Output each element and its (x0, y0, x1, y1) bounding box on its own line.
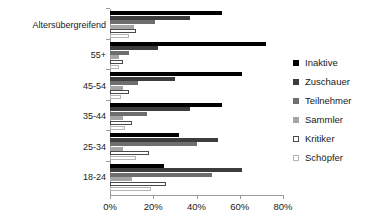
bar (110, 46, 158, 50)
bar (110, 168, 242, 172)
bar-row (110, 116, 283, 120)
bar (110, 16, 190, 20)
bar-row (110, 86, 283, 90)
bar-row (110, 177, 283, 181)
bar-row (110, 142, 283, 146)
bar-row (110, 72, 283, 76)
bar (110, 133, 179, 137)
bar (110, 142, 197, 146)
bar (110, 147, 123, 151)
bar-row (110, 107, 283, 111)
bar-row (110, 16, 283, 20)
bar-row (110, 60, 283, 64)
x-axis-label: 80% (263, 201, 303, 212)
bar-row (110, 164, 283, 168)
bar-row (110, 156, 283, 160)
bar-row (110, 103, 283, 107)
bar (110, 55, 119, 59)
bar-row (110, 182, 283, 186)
x-axis-tick (283, 195, 284, 199)
bar (110, 107, 190, 111)
bar-row (110, 126, 283, 130)
bar-row (110, 51, 283, 55)
bar-row (110, 65, 283, 69)
bar-row (110, 168, 283, 172)
bar (110, 138, 218, 142)
bar (110, 34, 129, 38)
bar-row (110, 25, 283, 29)
bar (110, 65, 119, 69)
legend-label: Sammler (305, 114, 343, 125)
bar (110, 116, 123, 120)
bar-row (110, 11, 283, 15)
x-axis-tick (110, 195, 111, 199)
bar (110, 11, 222, 15)
legend-item[interactable]: Kritiker (293, 129, 351, 148)
legend-label: Inaktive (305, 57, 338, 68)
bar (110, 177, 132, 181)
y-axis-tick (106, 130, 110, 131)
bar (110, 103, 222, 107)
legend-label: Zuschauer (305, 76, 350, 87)
bar-row (110, 187, 283, 191)
bar (110, 86, 123, 90)
bar (110, 164, 164, 168)
bar (110, 95, 121, 99)
legend-item[interactable]: Sammler (293, 110, 351, 129)
bar-row (110, 147, 283, 151)
bar (110, 29, 136, 33)
legend-swatch-icon (293, 136, 299, 142)
y-axis-tick (106, 100, 110, 101)
y-axis-label: 25-34 (83, 142, 106, 152)
legend-item[interactable]: Schöpfer (293, 148, 351, 167)
legend-swatch-icon (293, 79, 299, 85)
bar (110, 151, 149, 155)
bar-row (110, 133, 283, 137)
y-axis-tick (106, 161, 110, 162)
legend-item[interactable]: Zuschauer (293, 72, 351, 91)
y-axis-label: 55+ (91, 50, 106, 60)
legend-label: Kritiker (305, 133, 335, 144)
bar-row (110, 173, 283, 177)
bar-row (110, 42, 283, 46)
legend-label: Teilnehmer (305, 95, 351, 106)
legend-swatch-icon (293, 98, 299, 104)
bar (110, 51, 129, 55)
bar-row (110, 34, 283, 38)
x-axis-tick (153, 195, 154, 199)
y-axis-tick (106, 8, 110, 9)
x-axis-label: 0% (90, 201, 130, 212)
bar-row (110, 138, 283, 142)
x-axis-label: 20% (133, 201, 173, 212)
bar-row (110, 77, 283, 81)
y-axis-tick (106, 39, 110, 40)
bar-row (110, 46, 283, 50)
bar (110, 182, 166, 186)
x-axis-label: 40% (177, 201, 217, 212)
bar (110, 187, 151, 191)
legend-swatch-icon (293, 60, 299, 66)
bar-row (110, 20, 283, 24)
bar-row (110, 151, 283, 155)
chart-legend: InaktiveZuschauerTeilnehmerSammlerKritik… (293, 53, 351, 167)
plot-area (110, 9, 283, 195)
bar-row (110, 112, 283, 116)
x-axis-tick (197, 195, 198, 199)
bar-row (110, 95, 283, 99)
legend-label: Schöpfer (305, 152, 343, 163)
bar (110, 156, 136, 160)
bar (110, 72, 242, 76)
bar-row (110, 29, 283, 33)
bar (110, 42, 266, 46)
bar (110, 112, 147, 116)
bar (110, 77, 175, 81)
x-axis-tick (240, 195, 241, 199)
y-axis-tick (106, 69, 110, 70)
bar (110, 20, 155, 24)
bar (110, 81, 138, 85)
y-axis-label: 45-54 (83, 81, 106, 91)
bar-row (110, 81, 283, 85)
legend-item[interactable]: Teilnehmer (293, 91, 351, 110)
x-axis-label: 60% (220, 201, 260, 212)
legend-item[interactable]: Inaktive (293, 53, 351, 72)
